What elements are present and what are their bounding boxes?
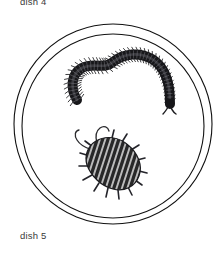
millipede-head (165, 99, 174, 107)
dish-label-top: dish 4 (20, 0, 47, 7)
dish-scene: dish 4 (0, 0, 223, 253)
dish-label-bottom: dish 5 (20, 230, 47, 241)
woodlouse-leg (118, 190, 119, 199)
illustration-canvas: dish 4 (0, 0, 223, 253)
background (0, 0, 223, 253)
